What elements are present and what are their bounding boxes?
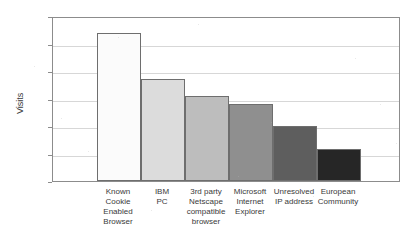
bar (273, 126, 317, 181)
x-category-label-line: Explorer (223, 207, 277, 217)
y-axis-label: Visits (13, 78, 27, 128)
x-category-label-line: Community (311, 197, 365, 207)
x-category-label-line: European (311, 187, 365, 197)
bar-series (53, 18, 399, 181)
bar (185, 96, 229, 181)
x-category-label: EuropeanCommunity (311, 187, 365, 207)
y-tick-mark (48, 182, 52, 183)
x-category-label-line: Browser (91, 217, 145, 227)
bar (97, 33, 141, 182)
x-category-label-line: browser (179, 217, 233, 227)
bar (141, 79, 185, 181)
bar-chart-figure: VISITS BY BROWSER AND DOMAIN CATEGORY Vi… (0, 0, 420, 235)
plot-area (52, 17, 400, 182)
x-category-label-line: Enabled (91, 207, 145, 217)
bar (229, 104, 273, 181)
chart-title-clipped: VISITS BY BROWSER AND DOMAIN CATEGORY (0, 0, 420, 1)
chart-title-text: VISITS BY BROWSER AND DOMAIN CATEGORY (0, 0, 420, 1)
bar (317, 149, 361, 181)
